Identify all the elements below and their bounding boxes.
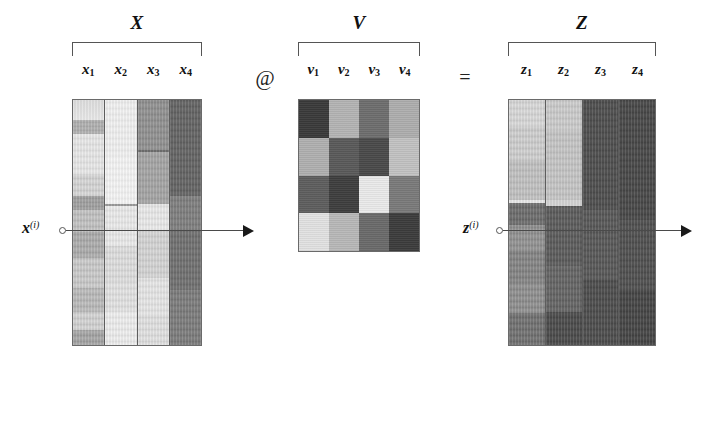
v-cell-r1c1	[299, 100, 329, 138]
v-cell-r4c4	[389, 213, 419, 251]
matrix-body-X	[72, 99, 202, 346]
v-cell-r1c4	[389, 100, 419, 138]
row-pointer-label-x: x(i)	[22, 219, 39, 237]
row-pointer-line-x	[66, 230, 246, 231]
column-label-z3: z3	[582, 61, 619, 78]
matrix-column-z1	[509, 100, 546, 345]
matrix-title-V: V	[298, 12, 420, 34]
row-pointer-marker-z	[496, 227, 503, 234]
matrix-body-V	[298, 99, 420, 252]
column-label-z2: z2	[545, 61, 582, 78]
v-cell-r2c4	[389, 138, 419, 176]
v-cell-r2c1	[299, 138, 329, 176]
matrix-column-x2	[105, 100, 137, 345]
column-labels-Z: z1 z2 z3 z4	[508, 56, 656, 82]
row-pointer-arrow-z	[681, 225, 692, 237]
row-pointer-label-z: z(i)	[463, 219, 479, 237]
matrix-title-Z: Z	[508, 12, 656, 34]
v-cell-r3c2	[329, 176, 359, 214]
matrix-body-Z	[508, 99, 656, 346]
column-label-x1: x1	[72, 61, 105, 78]
v-cell-r4c1	[299, 213, 329, 251]
figure-canvas: X x1 x2 x3 x4	[0, 0, 711, 423]
matrix-column-x1	[73, 100, 105, 345]
column-label-x2: x2	[105, 61, 138, 78]
operator-equals: =	[448, 66, 482, 89]
operator-matmul: @	[248, 66, 282, 91]
v-cell-r4c3	[359, 213, 389, 251]
v-cell-r4c2	[329, 213, 359, 251]
column-label-x4: x4	[170, 61, 203, 78]
matrix-column-x4	[170, 100, 201, 345]
column-labels-X: x1 x2 x3 x4	[72, 56, 202, 82]
column-label-v2: v2	[329, 61, 360, 78]
v-cell-r1c3	[359, 100, 389, 138]
column-label-z4: z4	[619, 61, 656, 78]
v-cell-r2c2	[329, 138, 359, 176]
column-label-v4: v4	[390, 61, 421, 78]
column-label-v3: v3	[359, 61, 390, 78]
column-labels-V: v1 v2 v3 v4	[298, 56, 420, 82]
row-pointer-arrow-x	[243, 225, 254, 237]
column-label-x3: x3	[137, 61, 170, 78]
matrix-column-x3	[138, 100, 170, 345]
matrix-column-z3	[583, 100, 620, 345]
row-pointer-line-z	[503, 230, 685, 231]
v-cell-r3c3	[359, 176, 389, 214]
v-cell-r3c1	[299, 176, 329, 214]
matrix-bracket-V	[298, 42, 420, 56]
matrix-bracket-X	[72, 42, 202, 56]
matrix-bracket-Z	[508, 42, 656, 56]
v-cell-r1c2	[329, 100, 359, 138]
matrix-column-z2	[546, 100, 583, 345]
v-cell-r3c4	[389, 176, 419, 214]
matrix-column-z4	[619, 100, 655, 345]
column-label-v1: v1	[298, 61, 329, 78]
column-label-z1: z1	[508, 61, 545, 78]
matrix-title-X: X	[72, 12, 202, 34]
v-cell-r2c3	[359, 138, 389, 176]
row-pointer-marker-x	[59, 227, 66, 234]
